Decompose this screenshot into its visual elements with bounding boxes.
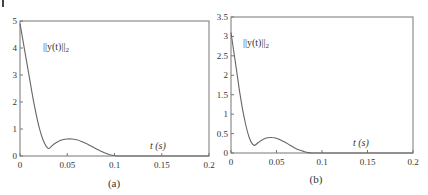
y-tick-label: 1: [224, 109, 229, 119]
y-axis-ticks-a: 012345: [13, 16, 24, 161]
y-tick-label: 2.5: [217, 51, 229, 61]
y-tick-label: 5: [13, 16, 18, 26]
y-tick-label: 2: [13, 97, 18, 107]
x-tick-label: 0.2: [407, 157, 418, 167]
y-tick-label: 0: [224, 148, 229, 158]
y-tick-label: 3: [224, 31, 229, 41]
y-tick-label: 4: [13, 43, 18, 53]
x-tick-label: 0: [229, 157, 234, 167]
x-tick-label: 0.1: [109, 160, 120, 170]
x-tick-label: 0.15: [360, 157, 376, 167]
x-tick-label: 0.15: [154, 160, 170, 170]
figure: 012345 00.050.10.150.2 ||y(t)||2 t (s) (…: [0, 0, 428, 195]
x-axis-label-a: t (s): [150, 140, 167, 152]
y-tick-label: 3: [13, 70, 18, 80]
x-tick-label: 0.2: [203, 160, 214, 170]
x-tick-label: 0.1: [316, 157, 327, 167]
x-axis-label-b: t (s): [353, 137, 370, 149]
y-tick-label: 2: [224, 70, 229, 80]
panel-a: 012345 00.050.10.150.2 ||y(t)||2 t (s) (…: [13, 16, 215, 190]
y-tick-label: 1.5: [217, 90, 229, 100]
panel-caption-a: (a): [108, 177, 121, 190]
y-tick-label: 0: [13, 151, 18, 161]
y-tick-label: 1: [13, 124, 18, 134]
y-tick-label: 0.5: [217, 129, 229, 139]
line-series-b: [231, 33, 413, 154]
series-annotation-a: ||y(t)||2: [43, 41, 69, 54]
panel-b: 00.511.522.533.5 00.050.10.150.2 ||y(t)|…: [217, 12, 419, 186]
y-tick-label: 3.5: [217, 12, 229, 22]
x-tick-label: 0.05: [269, 157, 285, 167]
x-tick-label: 0: [18, 160, 23, 170]
x-tick-label: 0.05: [59, 160, 75, 170]
panel-caption-b: (b): [310, 173, 323, 186]
series-annotation-b: ||y(t)||2: [243, 37, 269, 50]
